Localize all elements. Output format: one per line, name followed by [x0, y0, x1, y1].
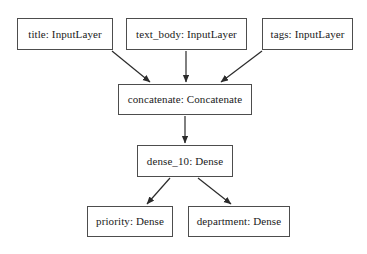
edge-dense_10-to-priority — [147, 178, 170, 204]
edge-title-to-concatenate — [112, 51, 150, 82]
node-title[interactable]: title: InputLayer — [17, 18, 113, 50]
node-priority[interactable]: priority: Dense — [87, 206, 173, 237]
node-label: title: InputLayer — [28, 29, 101, 40]
edge-tags-to-concatenate — [221, 51, 262, 82]
node-label: priority: Dense — [96, 216, 164, 227]
edge-dense_10-to-department — [198, 178, 231, 204]
edges-group — [112, 51, 262, 204]
node-text_body[interactable]: text_body: InputLayer — [126, 18, 247, 50]
node-dense_10[interactable]: dense_10: Dense — [137, 145, 233, 177]
node-label: dense_10: Dense — [147, 156, 223, 167]
node-tags[interactable]: tags: InputLayer — [262, 18, 353, 50]
node-label: department: Dense — [197, 216, 281, 227]
node-label: tags: InputLayer — [271, 29, 345, 40]
node-label: text_body: InputLayer — [136, 29, 237, 40]
model-graph-canvas: title: InputLayertext_body: InputLayerta… — [0, 0, 367, 254]
node-label: concatenate: Concatenate — [128, 94, 242, 105]
node-concatenate[interactable]: concatenate: Concatenate — [118, 84, 252, 115]
node-department[interactable]: department: Dense — [188, 206, 290, 237]
